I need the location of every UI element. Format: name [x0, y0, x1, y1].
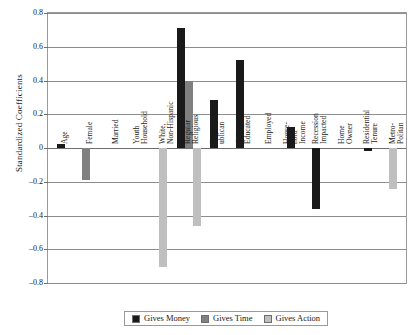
- bar: [57, 144, 65, 148]
- legend-swatch: [264, 315, 272, 323]
- bar-group: Youth Household: [125, 13, 151, 283]
- bar-group: Married: [99, 13, 125, 283]
- x-category-label: Female: [86, 122, 94, 144]
- legend-swatch: [132, 315, 140, 323]
- bar-group: White, Non-Hispanic: [150, 13, 176, 283]
- y-tick-label: 0.6: [33, 43, 43, 51]
- chart-figure: Standardized Coefficients 0.80.60.40.20–…: [0, 0, 418, 335]
- x-category-label: Employed: [265, 113, 273, 144]
- bar: [82, 148, 90, 180]
- x-category-label: Age: [61, 131, 69, 144]
- y-tick-label: –0.6: [29, 245, 43, 253]
- legend-label: Gives Action: [276, 314, 321, 323]
- legend-item: Gives Money: [132, 314, 190, 323]
- gridline: [48, 283, 406, 284]
- y-axis-title: Standardized Coefficients: [14, 48, 24, 198]
- bar: [389, 148, 397, 189]
- x-category-label: White, Non-Hispanic: [159, 101, 175, 144]
- x-category-label: Metro- Politan: [389, 122, 405, 144]
- bar-group: Female: [74, 13, 100, 283]
- x-category-label: Married: [112, 120, 120, 144]
- bar-group: Age: [48, 13, 74, 283]
- x-category-label: Residential Tenure: [363, 110, 379, 144]
- chart-legend: Gives MoneyGives TimeGives Action: [124, 311, 328, 326]
- bar: [312, 148, 320, 209]
- y-tick-label: –0.8: [29, 279, 43, 287]
- x-category-label: Home Owner: [338, 123, 354, 144]
- y-tick-label: –0.4: [29, 212, 43, 220]
- legend-label: Gives Time: [213, 314, 252, 323]
- legend-item: Gives Action: [264, 314, 321, 323]
- bar-group: Residential Tenure: [355, 13, 381, 283]
- y-tick-label: 0.4: [33, 77, 43, 85]
- bar: [159, 148, 167, 267]
- x-category-label: Regular Religious: [184, 115, 200, 144]
- bar-group: College Educated: [227, 13, 253, 283]
- bar-group: Rep- ublican: [201, 13, 227, 283]
- bar-group: Home Owner: [329, 13, 355, 283]
- legend-item: Gives Time: [201, 314, 252, 323]
- bar: [193, 148, 201, 226]
- legend-swatch: [201, 315, 209, 323]
- plot-area: 0.80.60.40.20–0.2–0.4–0.6–0.8AgeFemaleMa…: [47, 12, 407, 284]
- y-tick-label: 0.2: [33, 110, 43, 118]
- plot-inner: 0.80.60.40.20–0.2–0.4–0.6–0.8AgeFemaleMa…: [48, 13, 406, 283]
- y-tick-label: –0.2: [29, 178, 43, 186]
- y-tick-mark: [44, 283, 48, 284]
- x-category-label: Recession Impacted: [312, 113, 328, 144]
- bar-group: Regular Religious: [176, 13, 202, 283]
- bar: [364, 148, 372, 151]
- x-category-label: Rep- ublican: [210, 122, 226, 144]
- x-category-label: Youth Household: [133, 111, 149, 144]
- x-category-label: College Educated: [236, 116, 252, 144]
- legend-label: Gives Money: [144, 314, 190, 323]
- bar-group: Metro- Politan: [380, 13, 406, 283]
- y-tick-label: 0: [39, 144, 43, 152]
- bar-group: Employed: [253, 13, 279, 283]
- bar-group: House- hold Income: [278, 13, 304, 283]
- y-tick-label: 0.8: [33, 9, 43, 17]
- bar-group: Recession Impacted: [304, 13, 330, 283]
